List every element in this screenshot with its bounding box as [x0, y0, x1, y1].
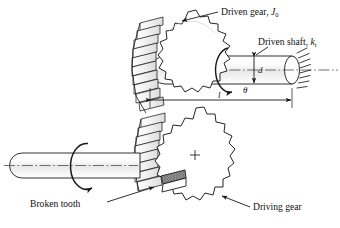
driven-gear-label: Driven gear, J0	[221, 6, 279, 18]
driven-shaft-leader	[256, 47, 268, 55]
driving-gear-label: Driving gear	[253, 201, 303, 212]
figure-canvas: θ d l Driven gear, J0 Driven shaft, kt B…	[0, 0, 340, 228]
twist-angle-label: θ	[243, 85, 248, 95]
broken-tooth-leader	[107, 187, 154, 202]
driving-gear	[134, 107, 235, 200]
driven-gear	[132, 10, 230, 113]
length-dimension	[150, 88, 292, 108]
diameter-label: d	[258, 65, 263, 75]
broken-tooth-label: Broken tooth	[30, 198, 81, 209]
driving-gear-leader	[222, 196, 250, 207]
length-label: l	[218, 90, 221, 100]
driven-gear-teeth	[158, 10, 230, 92]
driven-shaft-label: Driven shaft, kt	[258, 36, 317, 48]
gear-shaft-diagram: θ d l Driven gear, J0 Driven shaft, kt B…	[0, 0, 340, 228]
